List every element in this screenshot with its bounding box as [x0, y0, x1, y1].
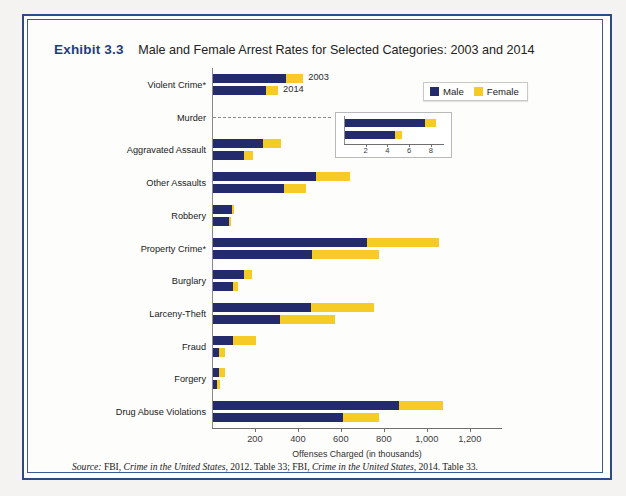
series-note-2003: 2003 [308, 72, 329, 82]
bar-female [367, 238, 439, 247]
x-axis-tick-label: 1,200 [458, 434, 481, 444]
x-axis-tick-label: 600 [333, 434, 349, 444]
bar-female [311, 303, 374, 312]
bar-male [213, 86, 266, 95]
bar-female [229, 217, 231, 226]
bar-female [232, 205, 234, 214]
chart-canvas: Exhibit 3.3 Male and Female Arrest Rates… [28, 20, 600, 470]
bar-female [233, 282, 237, 291]
category-label: Other Assaults [146, 178, 206, 188]
x-axis-title: Offenses Charged (in thousands) [292, 449, 421, 459]
bar-female [263, 139, 281, 148]
source-italic-2: Crime in the United States [312, 461, 414, 472]
x-axis-tick [384, 428, 385, 432]
category-label: Larceny-Theft [149, 309, 206, 319]
bar-male [213, 238, 367, 247]
bar-female [284, 184, 307, 193]
bar-female [316, 172, 350, 181]
category-label: Forgery [174, 374, 206, 384]
bar-male [213, 184, 284, 193]
bar-male [213, 139, 263, 148]
bar-male [213, 172, 316, 181]
source-text-1: FBI, [101, 461, 123, 472]
category-label: Fraud [182, 342, 206, 352]
bar-female [399, 401, 443, 410]
bar-male [213, 401, 399, 410]
bar-male [213, 336, 233, 345]
series-note-2014: 2014 [283, 84, 304, 94]
x-axis-tick-label: 200 [247, 434, 263, 444]
bar-female [244, 151, 253, 160]
page-title: Male and Female Arrest Rates for Selecte… [138, 43, 534, 57]
category-label: Property Crime* [141, 244, 206, 254]
source-text-3: , 2014. Table 33. [414, 461, 478, 472]
x-axis-tick [427, 428, 428, 432]
inset-tick-label: 6 [407, 146, 411, 155]
x-axis-tick [298, 428, 299, 432]
bar-male [213, 250, 312, 259]
bar-female [280, 315, 336, 324]
x-axis-tick-label: 800 [376, 434, 392, 444]
bar-male [213, 282, 233, 291]
bar-male [213, 315, 280, 324]
x-axis-tick [341, 428, 342, 432]
source-italic-1: Crime in the United States [124, 461, 226, 472]
bar-female [244, 270, 252, 279]
inset-bar-male [345, 119, 425, 127]
bar-female [266, 86, 278, 95]
bar-male [213, 270, 244, 279]
bar-female [219, 348, 225, 357]
bar-male [213, 303, 311, 312]
inset-tick-label: 4 [385, 146, 389, 155]
category-axis-labels: Violent Crime*MurderAggravated AssaultOt… [28, 68, 206, 428]
category-label: Robbery [171, 211, 206, 221]
bar-female [217, 380, 220, 389]
bar-male [213, 151, 244, 160]
bar-female [312, 250, 380, 259]
bar-male [213, 74, 286, 83]
category-label: Drug Abuse Violations [116, 407, 206, 417]
exhibit-title-row: Exhibit 3.3 Male and Female Arrest Rates… [54, 40, 534, 58]
murder-guide-dashed-line [213, 117, 331, 118]
bar-male [213, 217, 229, 226]
exhibit-number: Exhibit 3.3 [54, 42, 124, 57]
source-text-2: , 2012. Table 33; FBI, [225, 461, 312, 472]
bar-male [213, 413, 343, 422]
source-label: Source: [72, 461, 101, 472]
x-axis-tick [255, 428, 256, 432]
x-axis-tick-label: 1,000 [415, 434, 438, 444]
exhibit-page: Exhibit 3.3 Male and Female Arrest Rates… [0, 0, 626, 496]
murder-inset-chart: 2468 [335, 112, 452, 158]
bar-female [343, 413, 380, 422]
bar-female [219, 368, 224, 377]
inset-tick-label: 2 [364, 146, 368, 155]
inset-bar-male [345, 131, 395, 139]
category-label: Burglary [172, 276, 206, 286]
inset-bar-female [425, 119, 436, 127]
x-axis-tick [470, 428, 471, 432]
inset-x-axis-line [344, 144, 444, 145]
category-label: Violent Crime* [147, 80, 206, 90]
inset-tick-label: 8 [429, 146, 433, 155]
x-axis-tick-label: 400 [290, 434, 306, 444]
bar-female [286, 74, 303, 83]
source-note: Source: FBI, Crime in the United States,… [72, 461, 478, 472]
inset-plot-area [344, 116, 444, 144]
inset-bar-female [395, 131, 402, 139]
bar-female [233, 336, 256, 345]
category-label: Murder [177, 113, 206, 123]
category-label: Aggravated Assault [127, 145, 206, 155]
bar-male [213, 205, 232, 214]
